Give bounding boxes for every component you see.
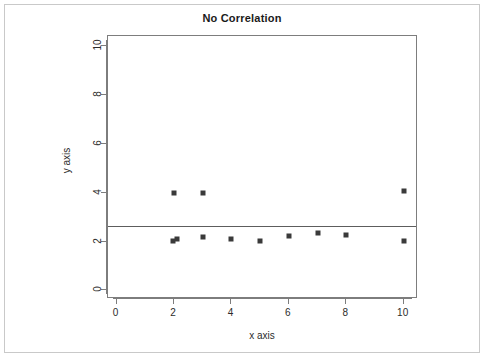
data-point	[286, 234, 291, 239]
x-tick	[116, 299, 117, 304]
y-tick-label: 10	[92, 38, 103, 52]
x-tick-label: 6	[285, 307, 291, 318]
x-tick-label: 4	[228, 307, 234, 318]
data-point	[401, 238, 406, 243]
y-tick-label: 2	[92, 234, 103, 248]
x-tick	[288, 299, 289, 304]
x-tick	[403, 299, 404, 304]
y-tick-label: 6	[92, 136, 103, 150]
trend-line	[108, 226, 416, 227]
x-tick-label: 0	[113, 307, 119, 318]
data-points-layer	[108, 36, 416, 297]
data-point	[172, 190, 177, 195]
data-point	[315, 230, 320, 235]
x-tick-label: 2	[170, 307, 176, 318]
data-point	[258, 238, 263, 243]
x-tick	[230, 299, 231, 304]
data-point	[401, 189, 406, 194]
y-axis-line	[106, 40, 107, 294]
y-tick-label: 8	[92, 87, 103, 101]
data-point	[344, 233, 349, 238]
x-tick	[173, 299, 174, 304]
plot-area	[107, 35, 417, 298]
chart-figure: No Correlation 0246810 0246810 x axis y …	[0, 0, 484, 357]
x-tick-label: 10	[397, 307, 408, 318]
y-tick-label: 4	[92, 185, 103, 199]
x-axis-label: x axis	[107, 330, 417, 341]
y-axis-label: y axis	[61, 131, 72, 191]
data-point	[200, 234, 205, 239]
y-tick-label: 0	[92, 282, 103, 296]
x-tick-label: 8	[342, 307, 348, 318]
chart-title: No Correlation	[0, 12, 484, 24]
data-point	[229, 236, 234, 241]
data-point	[174, 236, 179, 241]
x-tick	[345, 299, 346, 304]
data-point	[200, 190, 205, 195]
x-axis-line	[113, 298, 412, 299]
